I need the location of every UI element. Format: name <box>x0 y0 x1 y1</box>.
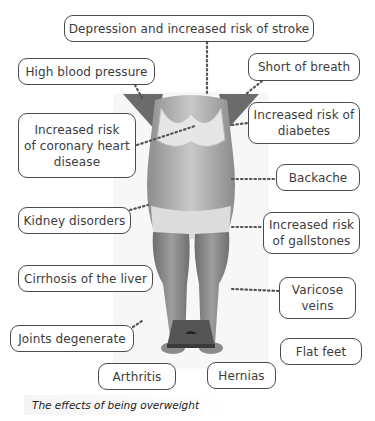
label-varicose-veins: Varicose veins <box>279 277 356 319</box>
label-flat-feet: Flat feet <box>280 338 362 365</box>
label-backache: Backache <box>276 164 360 191</box>
label-kidney-disorders: Kidney disorders <box>18 207 131 234</box>
label-gallstones: Increased risk of gallstones <box>263 212 360 254</box>
label-coronary-heart-disease: Increased risk of coronary heart disease <box>18 113 136 178</box>
label-cirrhosis: Cirrhosis of the liver <box>18 265 153 292</box>
label-joints-degenerate: Joints degenerate <box>10 325 134 352</box>
label-diabetes: Increased risk of diabetes <box>248 102 360 144</box>
label-arthritis: Arthritis <box>98 363 176 390</box>
label-hernias: Hernias <box>207 362 276 389</box>
label-depression-stroke: Depression and increased risk of stroke <box>64 15 314 42</box>
label-short-of-breath: Short of breath <box>248 53 360 81</box>
figure-caption: The effects of being overweight <box>24 395 232 415</box>
label-high-blood-pressure: High blood pressure <box>18 58 155 85</box>
